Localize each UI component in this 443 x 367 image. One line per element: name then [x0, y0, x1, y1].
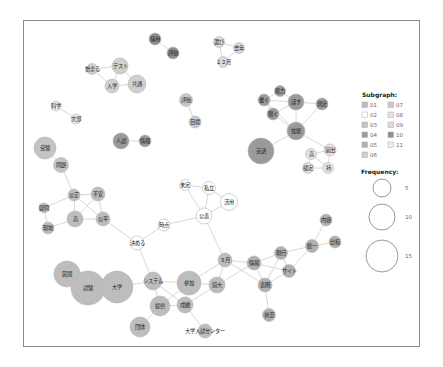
- node-label: 表明: [260, 281, 270, 289]
- node-label: 技能: [291, 127, 302, 135]
- network-node: 聞く: [267, 108, 279, 120]
- network-node: 現場: [42, 222, 54, 234]
- network-node: 受験: [34, 137, 56, 159]
- network-node: 大学: [101, 271, 133, 303]
- subgraph-label: 07: [396, 102, 403, 108]
- network-node: 持: [323, 163, 334, 174]
- node-label: 団体: [135, 323, 146, 331]
- node-label: ９月: [220, 257, 230, 264]
- network-node: 公表: [196, 208, 212, 224]
- node-label: 公正: [69, 192, 80, 198]
- node-label: 目標: [190, 118, 201, 126]
- node-label: 評価: [168, 49, 179, 57]
- subgraph-swatch: [362, 102, 368, 108]
- subgraph-swatch: [362, 142, 368, 148]
- frequency-legend-items: 51015: [366, 179, 412, 272]
- node-label: 状況: [264, 311, 275, 319]
- node-label: 大学: [112, 283, 122, 291]
- subgraph-swatch: [362, 112, 368, 118]
- network-node: 問題: [54, 158, 69, 173]
- node-label: 聞く: [268, 111, 278, 118]
- network-node: 団体: [130, 317, 150, 337]
- subgraph-label: 01: [370, 102, 377, 108]
- network-node: 技能: [287, 122, 305, 140]
- network-node: 科学: [51, 101, 61, 111]
- node-label: 受験: [40, 144, 51, 152]
- network-node: 選び: [214, 37, 226, 48]
- network-node: 公平: [96, 212, 110, 226]
- node-label: １２月: [216, 59, 231, 66]
- legend-frequency-title: Frequency:: [361, 168, 399, 176]
- network-node: １２月: [216, 57, 231, 68]
- network-node: 書く: [258, 94, 270, 106]
- legend-subgraph-title: Subgraph:: [362, 91, 397, 99]
- subgraph-swatch: [362, 152, 368, 158]
- network-node: 文部: [71, 114, 82, 124]
- network-node: 人試: [113, 133, 129, 149]
- node-label: 情報: [140, 137, 151, 145]
- network-node: 統一: [306, 240, 319, 253]
- node-label: 検定: [303, 164, 314, 172]
- node-label: 大学入試センター: [185, 327, 225, 335]
- node-label: 去年: [234, 44, 245, 52]
- network-node: 能力: [275, 86, 286, 97]
- frequency-label: 5: [405, 185, 409, 191]
- network-node: ９月: [218, 253, 232, 267]
- node-label: 活用: [224, 198, 234, 206]
- co-occurrence-network: 採用評価選び去年１２月始まるテスト入学共通評価目標科学文部人試情報受験問題能力書…: [0, 0, 443, 367]
- network-node: 検定: [303, 163, 315, 174]
- subgraph-swatch: [362, 122, 368, 128]
- network-node: 評価: [180, 94, 193, 107]
- node-label: 公平: [98, 216, 109, 223]
- node-label: 未定: [180, 181, 191, 189]
- node-label: 書く: [259, 96, 269, 104]
- nodes-layer: 採用評価選び去年１２月始まるテスト入学共通評価目標科学文部人試情報受験問題能力書…: [34, 33, 341, 338]
- node-label: 時点: [159, 222, 170, 229]
- subgraph-label: 02: [370, 112, 377, 118]
- network-node: 去年: [234, 43, 246, 54]
- network-node: 提供: [150, 296, 170, 316]
- subgraph-label: 04: [370, 132, 377, 138]
- node-label: 人試: [116, 137, 127, 145]
- node-label: 高: [73, 215, 78, 223]
- node-label: 統一: [307, 242, 318, 250]
- network-node: 情報: [247, 256, 261, 270]
- node-label: 能力: [275, 87, 285, 95]
- node-label: 内容: [321, 216, 332, 224]
- network-node: 富田: [324, 144, 336, 156]
- frequency-circle: [366, 240, 398, 272]
- subgraph-swatch: [388, 142, 394, 148]
- node-label: 提供: [155, 302, 166, 310]
- network-node: 始まる: [85, 64, 100, 75]
- network-node: 決める: [130, 236, 145, 250]
- network-node: 共通: [128, 75, 146, 93]
- network-node: テスト: [112, 58, 128, 74]
- node-label: 話す: [291, 98, 301, 106]
- subgraph-label: 11: [396, 142, 403, 148]
- network-node: 測定: [316, 98, 328, 110]
- node-label: サイト: [282, 268, 297, 274]
- network-node: 評価: [167, 47, 179, 59]
- network-node: 英語: [248, 138, 274, 164]
- node-label: 私立: [204, 184, 214, 192]
- network-node: 公正: [68, 189, 80, 201]
- node-label: 富田: [325, 146, 335, 154]
- node-label: 測定: [317, 100, 328, 108]
- network-node: 状況: [263, 309, 276, 322]
- subgraph-swatch: [388, 102, 394, 108]
- subgraph-label: 10: [396, 132, 403, 138]
- network-node: 採用: [149, 33, 161, 45]
- network-node: 時点: [158, 219, 170, 231]
- node-label: 比較: [330, 238, 341, 246]
- network-node: 情報: [139, 135, 151, 147]
- node-label: 参加: [184, 279, 194, 287]
- network-node: 成績: [177, 297, 193, 313]
- subgraph-legend-items: 0102030405060708091011: [362, 102, 403, 158]
- network-node: 私立: [203, 182, 216, 195]
- node-label: 問題: [56, 162, 67, 169]
- network-node: 大学入試センター: [185, 324, 225, 338]
- node-label: 情報: [249, 259, 260, 267]
- node-label: テスト: [113, 63, 128, 70]
- frequency-label: 10: [405, 214, 412, 220]
- node-label: 不安: [93, 190, 103, 198]
